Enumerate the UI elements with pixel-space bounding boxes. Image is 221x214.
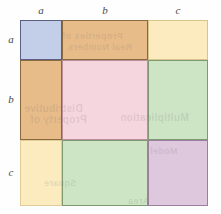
- cell-b-b: [62, 60, 148, 140]
- area-grid: [20, 20, 208, 206]
- cell-a-a: [20, 20, 62, 60]
- cell-c-b: [62, 140, 148, 206]
- cell-c-c: [148, 140, 208, 206]
- cell-a-b: [62, 20, 148, 60]
- row-label-a: a: [4, 33, 18, 45]
- column-label-b: b: [95, 4, 115, 16]
- cell-b-a: [20, 60, 62, 140]
- column-label-a: a: [31, 4, 51, 16]
- row-label-b: b: [4, 93, 18, 105]
- row-label-c: c: [4, 166, 18, 178]
- cell-b-c: [148, 60, 208, 140]
- cell-a-c: [148, 20, 208, 60]
- column-label-c: c: [168, 4, 188, 16]
- cell-c-a: [20, 140, 62, 206]
- area-model-diagram: Properties of Real Numbers Distributive …: [0, 0, 221, 214]
